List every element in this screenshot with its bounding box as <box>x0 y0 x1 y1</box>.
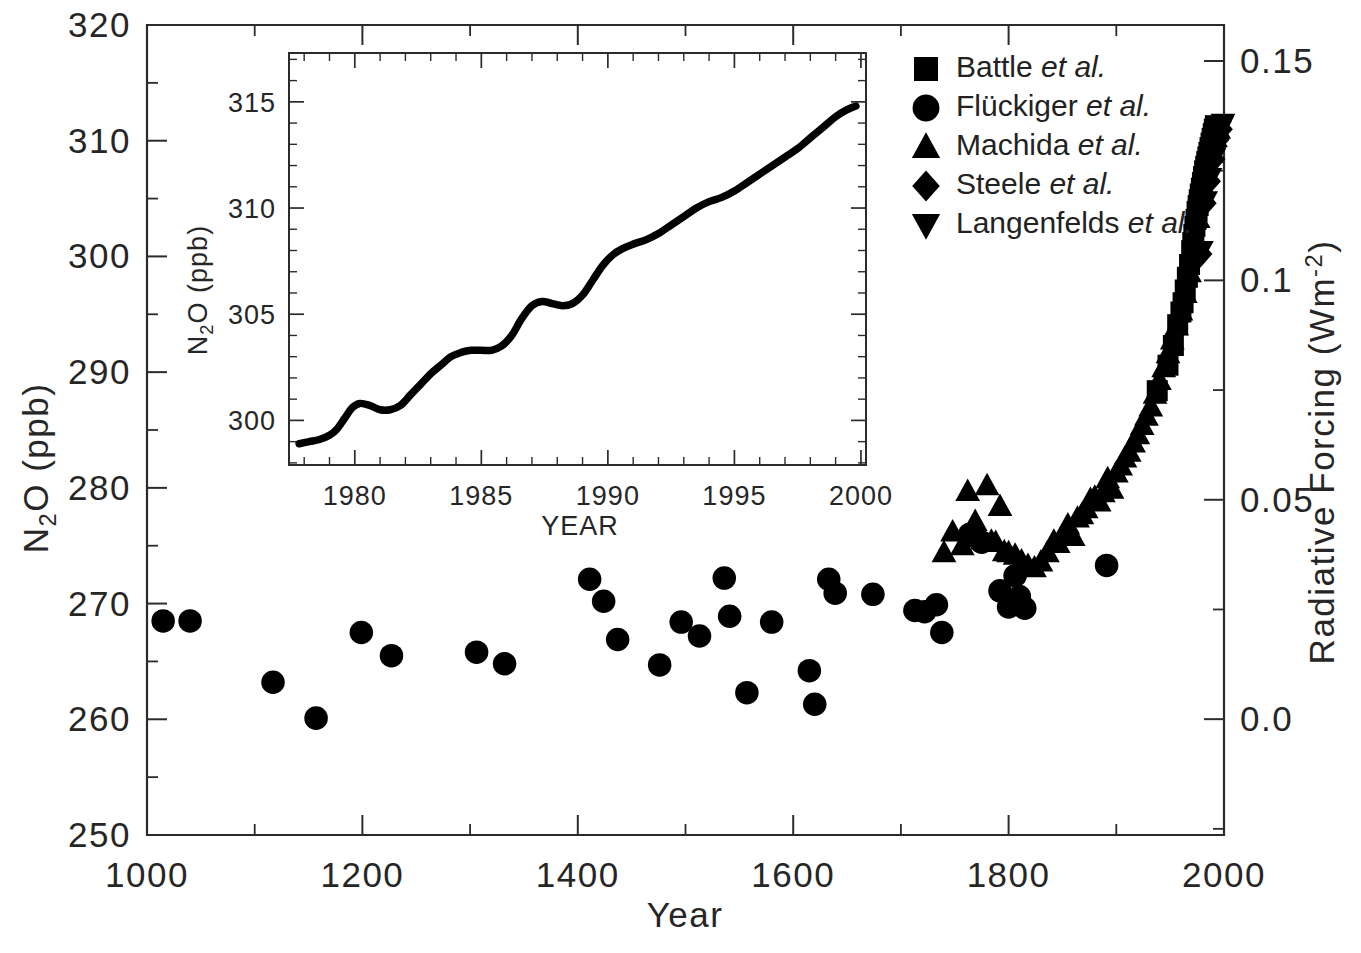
inset-y-tick-label: 315 <box>228 88 276 118</box>
data-point <box>930 621 954 645</box>
legend-marker-circle <box>913 95 940 122</box>
y-axis-right-title-post: ) <box>1302 240 1341 253</box>
data-point <box>606 628 630 652</box>
y-axis-left-title-pre: N <box>16 527 55 554</box>
x-tick-label: 1000 <box>105 855 189 894</box>
x-tick-label: 1600 <box>751 855 835 894</box>
data-point <box>493 652 517 676</box>
inset-x-tick-label: 1985 <box>449 481 513 511</box>
y-axis-left-title: N2O (ppb) <box>16 383 61 554</box>
inset-y-tick-label: 300 <box>228 406 276 436</box>
data-point <box>713 566 737 590</box>
data-point <box>178 609 202 633</box>
y-tick-label: 250 <box>68 815 131 854</box>
data-point <box>861 583 885 607</box>
x-axis-title: Year <box>647 895 724 934</box>
inset-y-title: N2O (ppb) <box>183 225 217 355</box>
data-point <box>350 621 374 645</box>
inset-y-tick-label: 305 <box>228 300 276 330</box>
data-point <box>760 610 784 634</box>
chart-canvas: 250260270280290300310320 0.00.050.10.15 … <box>0 0 1361 953</box>
data-point <box>803 692 827 716</box>
data-point <box>1013 596 1037 620</box>
data-point <box>798 659 822 683</box>
data-point <box>925 593 949 617</box>
legend-marker-square <box>914 57 938 81</box>
x-tick-label: 2000 <box>1182 855 1266 894</box>
inset-x-tick-label: 1990 <box>576 481 640 511</box>
svg-text:Radiative Forcing (Wm-2): Radiative Forcing (Wm-2) <box>1300 240 1341 665</box>
data-point <box>735 681 759 705</box>
inset-y-tick-label: 310 <box>228 194 276 224</box>
data-point <box>261 670 285 694</box>
x-tick-label: 1200 <box>320 855 404 894</box>
n2o-figure: 250260270280290300310320 0.00.050.10.15 … <box>0 0 1361 953</box>
inset-x-tick-label: 1980 <box>323 481 387 511</box>
data-point <box>648 653 672 677</box>
inset-x-tick-label: 2000 <box>829 481 893 511</box>
y-tick-label-right: 0.0 <box>1240 699 1293 738</box>
y-tick-label: 280 <box>68 468 131 507</box>
y-tick-label: 310 <box>68 121 131 160</box>
inset-frame <box>289 53 866 465</box>
data-point <box>151 609 175 633</box>
y-axis-right-title: Radiative Forcing (Wm-2) <box>1300 240 1341 665</box>
y-tick-label: 270 <box>68 584 131 623</box>
inset-y-title-pre: N <box>183 335 213 356</box>
data-point <box>465 640 489 664</box>
x-tick-label: 1400 <box>536 855 620 894</box>
data-point <box>718 605 742 629</box>
legend-label: Steele et al. <box>956 167 1114 200</box>
data-point <box>823 581 847 605</box>
y-tick-label-right: 0.1 <box>1240 260 1293 299</box>
data-point <box>380 644 404 668</box>
inset-x-title: YEAR <box>541 511 619 541</box>
data-point <box>688 624 712 648</box>
y-axis-right-title-pre: Radiative Forcing (Wm <box>1302 277 1341 664</box>
y-axis-left-title-sub: 2 <box>34 512 61 527</box>
y-axis-right-title-sup: -2 <box>1300 253 1327 277</box>
legend-label: Langenfelds et al. <box>956 206 1193 239</box>
y-tick-label: 320 <box>68 5 131 44</box>
y-tick-label: 260 <box>68 699 131 738</box>
data-point <box>304 706 328 730</box>
x-tick-label: 1800 <box>967 855 1051 894</box>
data-point <box>592 589 616 613</box>
data-point <box>1095 554 1119 578</box>
legend-label: Machida et al. <box>956 128 1143 161</box>
inset-y-title-post: O (ppb) <box>183 225 213 324</box>
inset-y-title-sub: 2 <box>196 323 217 334</box>
y-axis-left-title-post: O (ppb) <box>16 383 55 512</box>
legend-label: Flückiger et al. <box>956 89 1151 122</box>
legend-label: Battle et al. <box>956 50 1106 83</box>
inset-x-tick-label: 1995 <box>702 481 766 511</box>
y-tick-label: 290 <box>68 352 131 391</box>
y-tick-label-right: 0.15 <box>1240 41 1314 80</box>
data-point <box>578 568 602 592</box>
svg-text:N2O (ppb): N2O (ppb) <box>16 383 61 554</box>
y-tick-label: 300 <box>68 236 131 275</box>
